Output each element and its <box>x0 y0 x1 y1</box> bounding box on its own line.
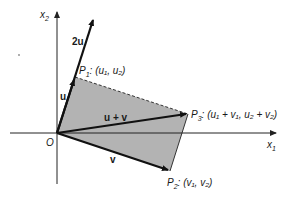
x2-axis-label: x2 <box>39 9 49 22</box>
point-p3-label: P3: (u₁ + v₁, u₂ + v₂) <box>191 109 277 122</box>
point-p2-label: P2: (v₁, v₂) <box>167 177 212 190</box>
stray-dot <box>18 54 20 56</box>
vector-diagram: x2 x1 O 2u u u + v v P1: (u₁, u₂) P3: (u… <box>0 0 291 198</box>
point-p1-label: P1: (u₁, u₂) <box>79 65 125 78</box>
label-2u: 2u <box>72 36 84 47</box>
x1-axis-label: x1 <box>266 139 276 152</box>
label-u-plus-v: u + v <box>104 112 128 123</box>
label-u: u <box>60 91 66 102</box>
origin-label: O <box>46 137 54 148</box>
label-v: v <box>110 154 116 165</box>
